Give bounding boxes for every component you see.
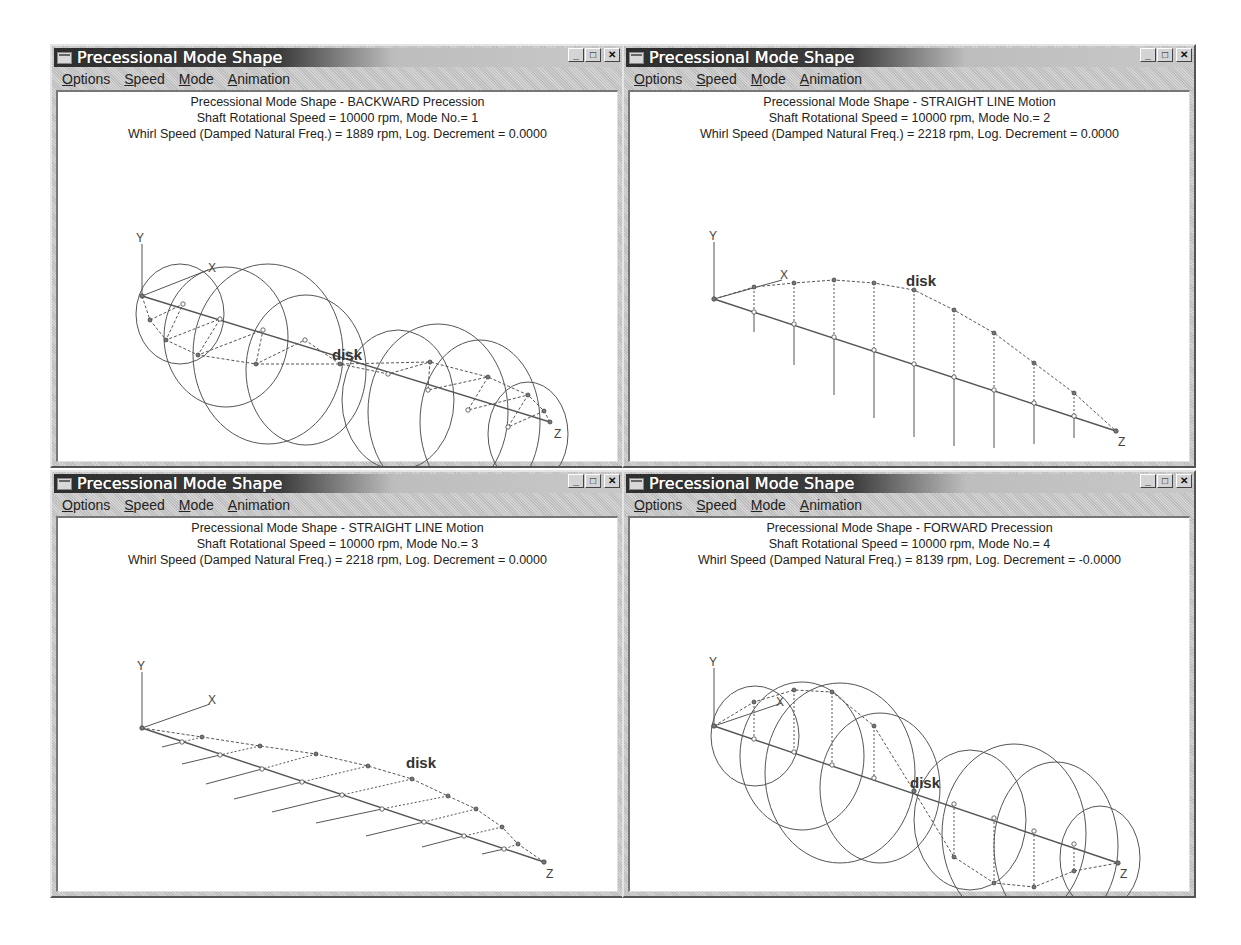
menu-options[interactable]: Options	[62, 71, 110, 87]
window-icon[interactable]	[629, 478, 644, 490]
window-title: Precessional Mode Shape	[77, 474, 283, 493]
minimize-button[interactable]: _	[1140, 474, 1156, 488]
close-button[interactable]: ✕	[604, 48, 620, 62]
minimize-button[interactable]: _	[568, 474, 584, 488]
menu-bar: Options Speed Mode Animation	[628, 69, 1190, 88]
menu-animation[interactable]: Animation	[800, 497, 862, 513]
plot-area: Precessional Mode Shape - FORWARD Preces…	[628, 516, 1190, 892]
title-bar[interactable]: Precessional Mode Shape	[626, 48, 1192, 67]
disk-label: disk	[406, 754, 437, 771]
title-bar[interactable]: Precessional Mode Shape	[54, 474, 620, 493]
mode-window-1[interactable]: Precessional Mode Shape _ □ ✕ Options Sp…	[50, 44, 624, 468]
z-axis-label: Z	[546, 867, 553, 881]
menu-options[interactable]: Options	[62, 497, 110, 513]
window-icon[interactable]	[629, 52, 644, 64]
mode-shape-plot: Y X Z disk	[58, 518, 624, 898]
menu-mode[interactable]: Mode	[179, 497, 214, 513]
mode-shape-plot: Y X Z disk	[630, 92, 1196, 468]
maximize-button[interactable]: □	[585, 474, 601, 488]
menu-animation[interactable]: Animation	[228, 497, 290, 513]
z-axis-label: Z	[554, 427, 561, 441]
title-bar[interactable]: Precessional Mode Shape	[54, 48, 620, 67]
menu-bar: Options Speed Mode Animation	[628, 495, 1190, 514]
z-axis-label: Z	[1118, 435, 1125, 449]
close-button[interactable]: ✕	[1176, 474, 1192, 488]
maximize-button[interactable]: □	[585, 48, 601, 62]
menu-bar: Options Speed Mode Animation	[56, 495, 618, 514]
menu-options[interactable]: Options	[634, 497, 682, 513]
window-title: Precessional Mode Shape	[649, 474, 855, 493]
disk-label: disk	[906, 272, 937, 289]
x-axis-label: X	[776, 695, 784, 709]
menu-speed[interactable]: Speed	[124, 497, 165, 513]
minimize-button[interactable]: _	[568, 48, 584, 62]
menu-animation[interactable]: Animation	[800, 71, 862, 87]
menu-mode[interactable]: Mode	[751, 497, 786, 513]
menu-options[interactable]: Options	[634, 71, 682, 87]
menu-bar: Options Speed Mode Animation	[56, 69, 618, 88]
window-icon[interactable]	[57, 52, 72, 64]
mode-shape-plot: Y X Z disk	[630, 518, 1196, 898]
close-button[interactable]: ✕	[1176, 48, 1192, 62]
menu-animation[interactable]: Animation	[228, 71, 290, 87]
window-title: Precessional Mode Shape	[77, 48, 283, 67]
window-icon[interactable]	[57, 478, 72, 490]
z-axis-label: Z	[1120, 867, 1127, 881]
y-axis-label: Y	[709, 229, 717, 243]
mode-window-2[interactable]: Precessional Mode Shape _ □ ✕ Options Sp…	[622, 44, 1196, 468]
disk-label: disk	[332, 346, 363, 363]
mode-window-3[interactable]: Precessional Mode Shape _ □ ✕ Options Sp…	[50, 470, 624, 898]
disk-label: disk	[910, 774, 941, 791]
plot-area: Precessional Mode Shape - BACKWARD Prece…	[56, 90, 618, 462]
mode-shape-plot: Y X Z disk	[58, 92, 624, 468]
menu-speed[interactable]: Speed	[696, 497, 737, 513]
y-axis-label: Y	[137, 659, 145, 673]
menu-speed[interactable]: Speed	[696, 71, 737, 87]
menu-mode[interactable]: Mode	[179, 71, 214, 87]
maximize-button[interactable]: □	[1157, 48, 1173, 62]
y-axis-label: Y	[136, 231, 144, 245]
menu-speed[interactable]: Speed	[124, 71, 165, 87]
close-button[interactable]: ✕	[604, 474, 620, 488]
x-axis-label: X	[208, 261, 216, 275]
x-axis-label: X	[780, 268, 788, 282]
title-bar[interactable]: Precessional Mode Shape	[626, 474, 1192, 493]
window-title: Precessional Mode Shape	[649, 48, 855, 67]
plot-area: Precessional Mode Shape - STRAIGHT LINE …	[628, 90, 1190, 462]
mode-window-4[interactable]: Precessional Mode Shape _ □ ✕ Options Sp…	[622, 470, 1196, 898]
plot-area: Precessional Mode Shape - STRAIGHT LINE …	[56, 516, 618, 892]
y-axis-label: Y	[709, 655, 717, 669]
menu-mode[interactable]: Mode	[751, 71, 786, 87]
maximize-button[interactable]: □	[1157, 474, 1173, 488]
minimize-button[interactable]: _	[1140, 48, 1156, 62]
x-axis-label: X	[208, 693, 216, 707]
